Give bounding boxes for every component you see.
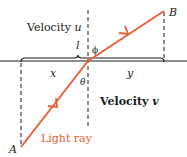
phi-label: ϕ — [92, 45, 98, 55]
theta-label: θ — [80, 77, 86, 87]
light-ray-refracted — [88, 11, 164, 61]
refraction-diagram: Velocity u Velocity v B A x y l ϕ θ Ligh… — [0, 0, 187, 157]
point-a-label: A — [8, 143, 17, 156]
l-label: l — [76, 39, 80, 52]
velocity-v-label: Velocity v — [99, 95, 159, 108]
y-label: y — [126, 67, 134, 80]
velocity-u-label: Velocity u — [26, 21, 82, 34]
light-ray-label: Light ray — [41, 132, 93, 145]
x-label: x — [50, 67, 57, 80]
arrow-icon — [119, 26, 128, 34]
arrow-icon — [48, 98, 57, 107]
point-b-label: B — [168, 6, 177, 19]
